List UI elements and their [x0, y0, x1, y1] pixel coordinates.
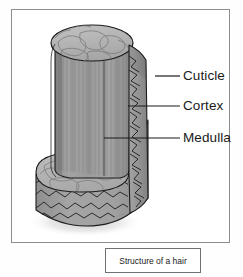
label-cortex: Cortex — [183, 99, 223, 113]
label-cuticle: Cuticle — [183, 69, 225, 83]
figure-container: Cuticle Cortex Medulla Structure of a ha… — [0, 0, 243, 277]
caption-box: Structure of a hair — [105, 248, 201, 273]
label-medulla: Medulla — [183, 131, 231, 145]
cuticle-scales-right — [129, 45, 148, 213]
caption-text: Structure of a hair — [119, 256, 187, 266]
